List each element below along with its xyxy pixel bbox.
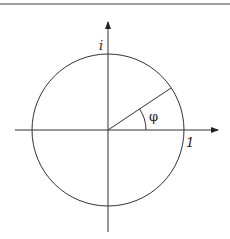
label-one: 1	[186, 135, 194, 150]
label-i: i	[99, 38, 103, 53]
label-phi: φ	[149, 109, 158, 124]
unit-circle-diagram: i 1 φ	[0, 0, 230, 239]
angle-arc	[140, 109, 147, 130]
